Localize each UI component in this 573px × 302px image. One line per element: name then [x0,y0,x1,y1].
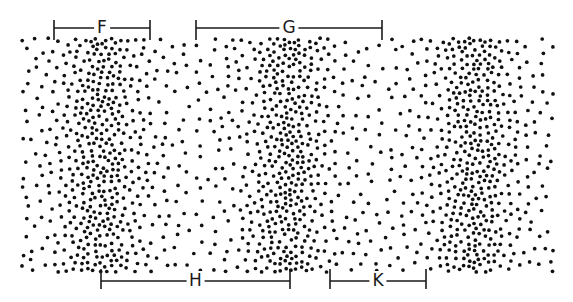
particle-dot [453,125,457,129]
particle-dot [485,125,489,129]
particle-dot [490,208,494,212]
particle-dot [231,118,235,122]
particle-dot [330,210,334,214]
particle-dot [62,262,66,266]
particle-dot [389,148,393,152]
particle-dot [91,65,95,69]
particle-dot [130,148,134,152]
particle-dot [298,69,302,73]
particle-dot [275,138,279,142]
particle-dot [448,240,452,244]
particle-dot [118,64,122,68]
particle-dot [445,180,449,184]
particle-dot [296,155,300,159]
particle-dot [132,54,136,58]
particle-dot [452,91,456,95]
particle-dot [471,162,475,166]
particle-dot [138,136,142,140]
particle-dot [100,255,104,259]
particle-dot [153,50,157,54]
particle-dot [159,38,163,42]
particle-dot [281,228,285,232]
particle-dot [214,230,218,234]
particle-dot [59,176,63,180]
particle-dot [508,94,512,98]
particle-dot [493,99,497,103]
particle-dot [459,81,463,85]
particle-dot [47,184,51,188]
particle-dot [305,124,309,128]
particle-dot [72,64,76,68]
particle-dot [115,174,119,178]
particle-dot [399,112,403,116]
particle-dot [314,88,318,92]
particle-dot [130,77,134,81]
particle-dot [477,232,481,236]
particles [20,36,555,274]
particle-dot [118,48,122,52]
particle-dot [456,120,460,124]
particle-dot [142,128,146,132]
particle-dot [129,84,133,88]
particle-dot [91,159,95,163]
particle-dot [440,221,444,225]
particle-dot [425,59,429,63]
particle-dot [549,260,553,264]
particle-dot [436,46,440,50]
particle-dot [465,113,469,117]
particle-dot [240,109,244,113]
particle-dot [459,188,463,192]
particle-dot [225,250,229,254]
particle-dot [123,95,127,99]
particle-dot [466,253,470,257]
particle-dot [465,54,469,58]
particle-dot [98,155,102,159]
particle-dot [245,66,249,70]
particle-dot [280,220,284,224]
particle-dot [323,152,327,156]
particle-dot [509,159,513,163]
particle-dot [33,224,37,228]
particle-dot [463,40,467,44]
particle-dot [64,184,68,188]
particle-dot [105,233,109,237]
particle-dot [551,269,555,273]
particle-dot [66,120,70,124]
particle-dot [538,111,542,115]
particle-dot [308,204,312,208]
particle-dot [465,172,469,176]
particle-dot [514,145,518,149]
particle-dot [313,197,317,201]
longitudinal-wave-diagram: F G H K [0,0,573,302]
particle-dot [223,209,227,213]
particle-dot [176,184,180,188]
particle-dot [497,73,501,77]
particle-dot [260,255,264,259]
particle-dot [80,172,84,176]
particle-dot [454,199,458,203]
particle-dot [460,58,464,62]
particle-dot [473,249,477,253]
particle-dot [25,46,29,50]
particle-dot [467,247,471,251]
particle-dot [429,267,433,271]
particle-dot [330,139,334,143]
particle-dot [141,247,145,251]
particle-dot [281,61,285,65]
particle-dot [260,115,264,119]
particle-dot [89,180,93,184]
particle-dot [498,59,502,63]
particle-dot [136,98,140,102]
particle-dot [63,225,67,229]
particle-dot [91,223,95,227]
particle-dot [136,194,140,198]
particle-dot [300,189,304,193]
particle-dot [450,80,454,84]
particle-dot [360,84,364,88]
particle-dot [471,197,475,201]
particle-dot [123,165,127,169]
particle-dot [266,114,270,118]
particle-dot [480,111,484,115]
particle-dot [473,89,477,93]
particle-dot [86,261,90,265]
